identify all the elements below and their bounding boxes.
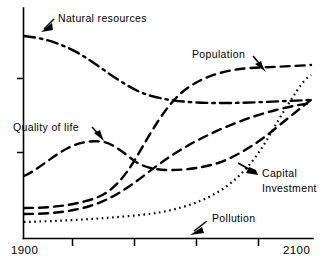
x-axis-label-end: 2100 [283, 244, 310, 256]
series-line-natural-resources [24, 36, 311, 103]
annotation-capital-investment: Capital Investment [238, 163, 317, 194]
series-line-capital-investment [24, 103, 311, 214]
chart-container: Natural resources Population Quality of … [0, 0, 327, 256]
annotation-quality-of-life: Quality of life [13, 121, 104, 141]
annotation-label-population: Population [192, 48, 245, 60]
annotation-arrowhead-natural-resources [41, 23, 53, 32]
axis-tick-labels: 1900 2100 [11, 244, 310, 256]
annotation-label-quality-of-life: Quality of life [13, 121, 79, 133]
annotation-label-pollution: Pollution [212, 212, 255, 224]
annotation-label-natural-resources: Natural resources [58, 12, 147, 24]
x-axis-label-start: 1900 [11, 244, 38, 256]
annotation-pollution: Pollution [190, 212, 255, 235]
annotation-label-capital-line1: Capital [262, 167, 297, 179]
annotation-label-capital-line2: Investment [262, 182, 317, 194]
world-model-line-chart: Natural resources Population Quality of … [0, 0, 327, 256]
annotation-natural-resources: Natural resources [41, 12, 147, 32]
